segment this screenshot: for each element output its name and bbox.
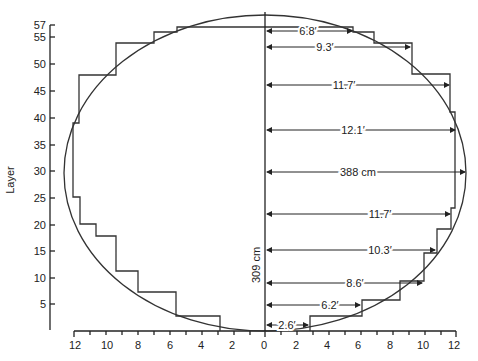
x-axis bbox=[74, 331, 456, 337]
dim-label: 2.6′ bbox=[278, 319, 295, 331]
dim-label: 8.6′ bbox=[346, 277, 363, 289]
x-tick: 12 bbox=[69, 339, 81, 351]
y-tick: 45 bbox=[34, 85, 46, 97]
dim-label: 6.2′ bbox=[321, 299, 338, 311]
x-tick: 4 bbox=[324, 339, 330, 351]
y-axis bbox=[50, 25, 55, 330]
dimension-labels: 6.8′ 9.3′ 11.7′ 12.1′ 388 cm 11.7′ 10.3′… bbox=[278, 25, 391, 331]
y-tick: 10 bbox=[34, 272, 46, 284]
x-tick: 8 bbox=[135, 339, 141, 351]
x-tick-labels-right: 2 4 6 8 10 12 bbox=[293, 339, 460, 351]
y-tick: 50 bbox=[34, 58, 46, 70]
y-tick: 25 bbox=[34, 192, 46, 204]
x-tick: 12 bbox=[448, 339, 460, 351]
dim-label: 12.1′ bbox=[341, 124, 364, 136]
dim-label: 11.7′ bbox=[333, 79, 356, 91]
y-tick: 5 bbox=[40, 298, 46, 310]
y-tick: 30 bbox=[34, 165, 46, 177]
dim-label: 11.7′ bbox=[369, 208, 392, 220]
x-tick: 10 bbox=[101, 339, 113, 351]
y-tick: 57 bbox=[34, 19, 46, 31]
y-tick: 40 bbox=[34, 112, 46, 124]
x-tick: 8 bbox=[387, 339, 393, 351]
dim-label: 388 cm bbox=[340, 166, 376, 178]
layer-profile-diagram: 57 55 50 45 40 35 30 25 20 15 10 5 Layer… bbox=[0, 0, 478, 361]
y-tick: 15 bbox=[34, 245, 46, 257]
dim-label: 6.8′ bbox=[299, 25, 316, 37]
x-tick: 10 bbox=[417, 339, 429, 351]
dimension-arrows bbox=[267, 31, 465, 325]
dim-label: 9.3′ bbox=[316, 41, 333, 53]
x-tick: 2 bbox=[293, 339, 299, 351]
y-tick: 20 bbox=[34, 219, 46, 231]
x-tick: 6 bbox=[355, 339, 361, 351]
x-tick: 4 bbox=[198, 339, 204, 351]
vertical-dimension-label: 309 cm bbox=[250, 247, 262, 283]
stepped-layer-profile bbox=[73, 27, 455, 331]
y-tick: 55 bbox=[34, 31, 46, 43]
y-axis-label: Layer bbox=[4, 166, 16, 194]
dim-label: 10.3′ bbox=[368, 244, 391, 256]
y-tick-labels: 57 55 50 45 40 35 30 25 20 15 10 5 bbox=[34, 19, 46, 310]
x-tick: 2 bbox=[229, 339, 235, 351]
x-tick-labels-left: 12 10 8 6 4 2 0 bbox=[69, 339, 267, 351]
x-tick: 6 bbox=[167, 339, 173, 351]
x-tick: 0 bbox=[261, 339, 267, 351]
y-tick: 35 bbox=[34, 139, 46, 151]
